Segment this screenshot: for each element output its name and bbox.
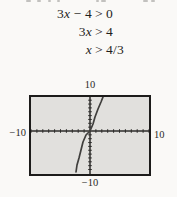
variable: x	[64, 6, 70, 21]
text-fragment	[48, 0, 51, 2]
window-label-xmax: 10	[154, 129, 176, 140]
inequality-derivation: 3x − 4>03x>4x>4/3	[36, 6, 150, 60]
text-fragment	[26, 0, 31, 2]
derivation-line-1-lhs: 3x − 4	[36, 6, 92, 24]
text-fragment	[37, 0, 41, 2]
window-label-xmin: −10	[1, 127, 26, 138]
window-label-ymin: −10	[70, 177, 110, 188]
text-fragment	[57, 0, 60, 2]
text-fragment	[101, 0, 106, 2]
calculator-screen	[29, 95, 151, 176]
text-fragment	[96, 0, 99, 2]
calculator-graph: 10 −10 10 −10	[0, 76, 177, 197]
textbook-excerpt: 3x − 4>03x>4x>4/3 10 −10 10 −10	[0, 0, 177, 197]
derivation-line-3-op: >	[92, 42, 106, 60]
text-fragment	[143, 0, 148, 2]
text-fragment	[151, 0, 155, 2]
derivation-line-3-rhs: 4/3	[106, 42, 150, 60]
cropped-text-fragments	[0, 0, 177, 4]
derivation-line-1-op: >	[92, 6, 106, 24]
graph-plot	[31, 97, 149, 174]
derivation-line-2-op: >	[92, 24, 106, 42]
derivation-line-2-rhs: 4	[106, 24, 150, 42]
derivation-line-2-lhs: 3x	[36, 24, 92, 42]
derivation-line-1-rhs: 0	[106, 6, 150, 24]
window-label-ymax: 10	[80, 79, 100, 90]
derivation-line-3-lhs: x	[36, 42, 92, 60]
